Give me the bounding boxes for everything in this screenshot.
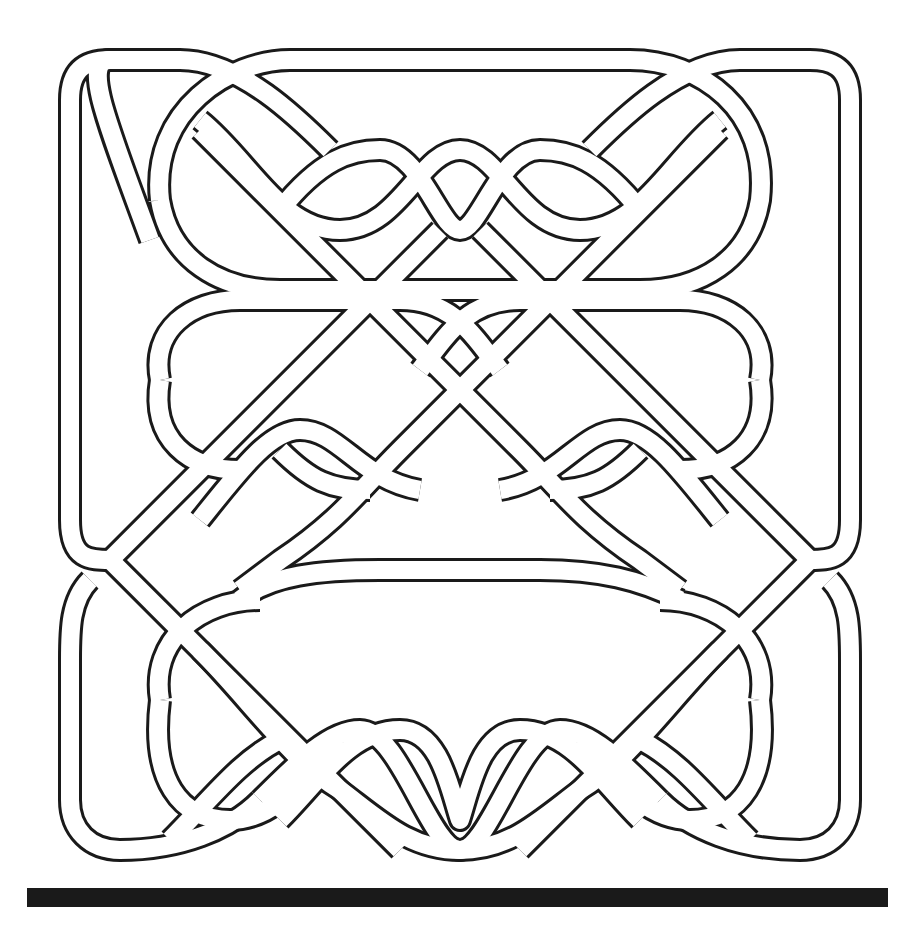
base-bar bbox=[27, 888, 888, 907]
celtic-knot-figure bbox=[0, 0, 920, 939]
knot-band-fills bbox=[70, 60, 850, 850]
